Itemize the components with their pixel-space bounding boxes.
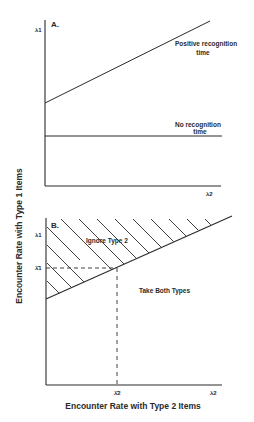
no-recognition-label-2: time (193, 128, 207, 135)
y-axis-title: Encounter Rate with Type 1 Items (14, 168, 24, 304)
hatched-region (30, 210, 254, 352)
diagram-canvas: A. λ1 λ2 Positive recognition time No re… (0, 0, 254, 422)
panel-a-y-axis-label: λ1 (35, 27, 42, 33)
panel-b-y-axis-label: λ1 (35, 232, 42, 238)
lambda1-hat-label: λ̂1 (35, 265, 42, 271)
positive-recognition-line (45, 21, 210, 103)
panel-a-x-axis-label: λ2 (206, 191, 213, 197)
panel-a-label: A. (51, 20, 59, 29)
panel-a: A. λ1 λ2 Positive recognition time No re… (35, 20, 237, 197)
panel-b-x-axis-label: λ2 (210, 390, 217, 396)
x-axis-title: Encounter Rate with Type 2 Items (65, 401, 201, 411)
take-both-types-label: Take Both Types (139, 287, 190, 295)
positive-recognition-label-2: time (196, 49, 210, 56)
ignore-type-2-label: Ignore Type 2 (86, 237, 128, 245)
lambda2-hat-label: λ̂2 (114, 390, 121, 396)
panel-b: B. λ1 λ̂1 λ̂2 λ2 Ignore Type 2 Take Both… (30, 210, 254, 396)
panel-b-label: B. (51, 221, 59, 230)
positive-recognition-label: Positive recognition (175, 40, 237, 48)
